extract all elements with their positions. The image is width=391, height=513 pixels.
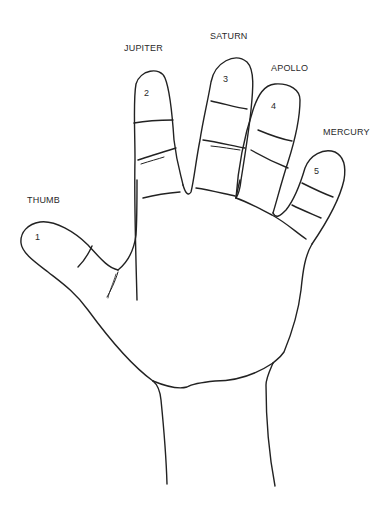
label-saturn: SATURN (210, 31, 248, 41)
number-1: 1 (35, 232, 40, 242)
forearm-left-edge (153, 381, 167, 484)
middle-crease-3 (196, 188, 235, 196)
number-4: 4 (271, 101, 276, 111)
pinky-crease-2 (292, 205, 321, 218)
hand-diagram: THUMB JUPITER SATURN APOLLO MERCURY 1 2 … (0, 0, 391, 513)
label-mercury: MERCURY (323, 127, 370, 137)
thumb-crease (78, 246, 92, 267)
middle-crease-1 (211, 101, 247, 109)
index-crease-2 (138, 148, 176, 160)
label-jupiter: JUPITER (124, 43, 163, 53)
forearm-right-edge (266, 363, 275, 486)
pinky-crease-1 (302, 183, 333, 197)
number-3: 3 (223, 74, 228, 84)
palm-right-edge (273, 244, 312, 363)
thumb-base-mark-2 (108, 274, 116, 298)
index-crease-3 (143, 192, 180, 198)
ring-crease-1 (258, 130, 292, 141)
index-finger-outline (134, 71, 183, 300)
label-thumb: THUMB (27, 195, 60, 205)
palm-top-line-right (236, 198, 306, 239)
index-crease-1 (134, 120, 173, 123)
palm-bottom-curve (153, 363, 273, 388)
ring-crease-2 (251, 150, 288, 168)
number-5: 5 (314, 166, 319, 176)
hand-outline-drawing (0, 0, 391, 513)
middle-crease-2 (203, 140, 245, 148)
label-apollo: APOLLO (271, 63, 308, 73)
pinky-finger-outline (273, 151, 345, 244)
index-middle-gap (183, 58, 253, 198)
number-2: 2 (144, 88, 149, 98)
